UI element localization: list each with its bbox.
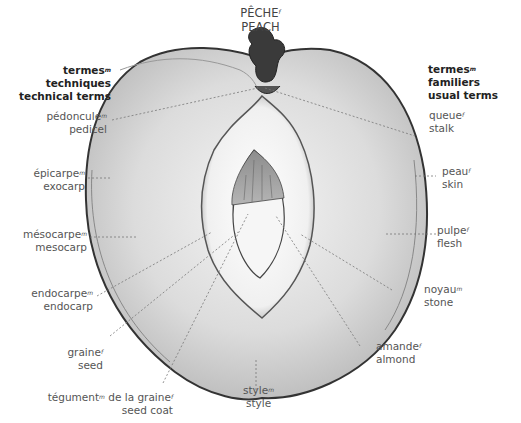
header-right-fr: termes [428,63,470,75]
label-fr: pulpe [437,224,466,236]
gender-marker: m [81,230,87,237]
header-right-fr-rest: familiers [428,76,480,88]
label-en: skin [442,178,470,191]
gender-marker: f [462,111,464,118]
label-en: pedicel [46,123,107,136]
label-fr: peau [442,165,468,177]
label-en: stalk [429,122,464,135]
label-en: flesh [437,237,469,250]
label-seed-coat: tégumentm de la grainef seed coat [48,391,173,417]
label-fr: tégument [48,391,99,403]
gender-marker: f [466,226,468,233]
label-en: seed [67,359,103,372]
header-left-fr-rest: techniques [46,77,111,89]
label-fr: mésocarpe [23,228,81,240]
label-fr: amande [376,340,419,352]
gender-marker: f [468,167,470,174]
header-right-en: usual terms [428,89,521,102]
title-fr: PÊCHE [240,6,278,20]
title-en: PEACH [0,20,521,34]
label-pedicel: pédonculem pedicel [46,110,107,136]
gender-marker: m [87,289,93,296]
gender-marker: m [105,66,111,73]
label-fr: pédoncule [46,110,101,122]
label-exocarp: épicarpem exocarp [33,167,85,193]
label-en: seed coat [48,404,173,417]
label-fr: épicarpe [33,167,79,179]
label-mesocarp: mésocarpem mesocarp [23,228,87,254]
label-almond: amandef almond [376,340,421,366]
gender-marker: m [456,285,462,292]
gender-marker: m [268,386,274,393]
header-left-fr: termes [63,64,105,76]
label-en: mesocarp [23,241,87,254]
gender-marker: f [171,393,173,400]
label-fr: endocarpe [31,287,87,299]
label-en: exocarp [33,180,85,193]
label-skin: peauf skin [442,165,470,191]
gender-marker: m [99,393,105,400]
gender-marker: m [79,169,85,176]
label-en: stone [424,296,462,309]
label-en: almond [376,353,421,366]
label-seed: grainef seed [67,346,103,372]
label-flesh: pulpef flesh [437,224,469,250]
gender-marker: f [419,342,421,349]
label-en: endocarp [31,300,93,313]
label-fr: noyau [424,283,456,295]
header-left-en: technical terms [0,90,111,103]
gender-marker: f [279,8,281,15]
label-fr: queue [429,109,462,121]
label-stalk: queuef stalk [429,109,464,135]
label-style: stylem style [243,384,274,410]
label-fr: graine [67,346,100,358]
label-endocarp: endocarpem endocarp [31,287,93,313]
usual-terms-header: termesm familiers usual terms [428,63,521,102]
label-en: style [243,397,274,410]
technical-terms-header: termesm techniques technical terms [0,64,111,103]
gender-marker: m [470,65,476,72]
diagram-title: PÊCHEf PEACH [0,6,521,34]
label-stone: noyaum stone [424,283,462,309]
label-fr: style [243,384,268,396]
gender-marker: m [101,112,107,119]
gender-marker: f [101,348,103,355]
label-fr-rest: de la graine [105,391,171,403]
